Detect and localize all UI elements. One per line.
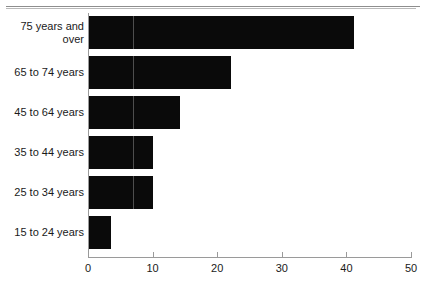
- category-label: 15 to 24 years: [4, 226, 88, 239]
- bar: [88, 56, 231, 89]
- x-tick-30: [282, 252, 283, 258]
- x-tick-label-40: 40: [331, 262, 361, 275]
- category-label-row: 75 years and over: [0, 16, 88, 49]
- bar: [88, 96, 180, 129]
- category-label: 25 to 34 years: [4, 186, 88, 199]
- x-tick-50: [411, 252, 412, 258]
- category-label-row: 25 to 34 years: [0, 176, 88, 209]
- x-tick-label-50: 50: [396, 262, 422, 275]
- category-label: 65 to 74 years: [4, 66, 88, 79]
- x-tick-0: [88, 252, 89, 258]
- category-label: 35 to 44 years: [4, 146, 88, 159]
- category-label: 75 years and over: [4, 20, 88, 46]
- bar: [88, 136, 153, 169]
- x-tick-40: [346, 252, 347, 258]
- category-label: 45 to 64 years: [4, 106, 88, 119]
- bar: [88, 16, 354, 49]
- x-tick-10: [153, 252, 154, 258]
- x-tick-label-20: 20: [202, 262, 232, 275]
- bar: [88, 216, 111, 249]
- bar-chart: 75 years and over65 to 74 years45 to 64 …: [0, 0, 422, 285]
- x-tick-label-0: 0: [73, 262, 103, 275]
- plot-area: 75 years and over65 to 74 years45 to 64 …: [0, 0, 422, 285]
- scan-artifact: [133, 13, 134, 257]
- y-axis-line: [88, 13, 89, 258]
- category-label-row: 65 to 74 years: [0, 56, 88, 89]
- bar: [88, 176, 153, 209]
- x-tick-label-30: 30: [267, 262, 297, 275]
- category-label-row: 45 to 64 years: [0, 96, 88, 129]
- x-axis-line: [88, 257, 411, 258]
- category-label-row: 15 to 24 years: [0, 216, 88, 249]
- x-tick-label-10: 10: [138, 262, 168, 275]
- x-tick-20: [217, 252, 218, 258]
- category-label-row: 35 to 44 years: [0, 136, 88, 169]
